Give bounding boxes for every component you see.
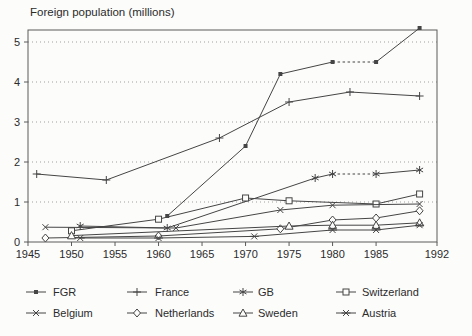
segment — [167, 178, 315, 228]
marker-filled-square — [34, 290, 38, 294]
segment — [289, 201, 376, 204]
segment — [159, 229, 281, 236]
segment — [376, 225, 420, 230]
legend-label-netherlands: Netherlands — [155, 307, 215, 319]
marker-filled-square — [278, 72, 282, 76]
chart-page: Foreign population (millions)01234519451… — [0, 0, 472, 336]
legend-label-belgium: Belgium — [53, 307, 93, 319]
marker-square — [243, 195, 249, 201]
marker-x-bar — [342, 310, 351, 316]
x-tick-label-1960: 1960 — [146, 248, 170, 260]
y-tick-label-4: 4 — [14, 76, 20, 88]
segment — [350, 92, 420, 96]
marker-plus — [33, 170, 41, 178]
marker-diamond — [416, 207, 423, 215]
x-tick-label-1985: 1985 — [364, 248, 388, 260]
legend-label-switzerland: Switzerland — [362, 286, 419, 298]
y-tick-label-1: 1 — [14, 196, 20, 208]
marker-square — [286, 198, 292, 204]
marker-square — [343, 289, 349, 295]
segment — [280, 205, 332, 210]
marker-plus — [416, 92, 424, 100]
legend-item-austria: Austria — [336, 307, 397, 319]
series-gb — [77, 166, 423, 232]
x-tick-label-1970: 1970 — [233, 248, 257, 260]
marker-filled-square — [418, 26, 422, 30]
marker-filled-square — [244, 144, 248, 148]
legend-label-austria: Austria — [362, 307, 397, 319]
y-tick-label-3: 3 — [14, 116, 20, 128]
segment — [333, 204, 420, 205]
marker-diamond — [42, 234, 49, 242]
marker-square — [417, 191, 423, 197]
segment — [289, 92, 350, 102]
y-tick-label-5: 5 — [14, 36, 20, 48]
marker-x-bar — [250, 233, 259, 239]
legend-label-fgr: FGR — [53, 286, 76, 298]
marker-plus — [215, 134, 223, 142]
x-tick-label-1965: 1965 — [190, 248, 214, 260]
y-tick-label-2: 2 — [14, 156, 20, 168]
legend-item-sweden: Sweden — [233, 307, 298, 319]
y-tick-label-0: 0 — [14, 236, 20, 248]
legend-item-netherlands: Netherlands — [127, 307, 215, 319]
legend-label-gb: GB — [258, 286, 274, 298]
legend-label-france: France — [155, 286, 189, 298]
marker-square — [156, 216, 162, 222]
legend-item-belgium: Belgium — [26, 307, 93, 319]
x-tick-label-1950: 1950 — [59, 248, 83, 260]
marker-x-bar — [76, 235, 85, 241]
marker-plus — [133, 288, 141, 296]
series-fgr — [165, 26, 421, 218]
segment — [72, 219, 159, 231]
segment — [37, 174, 107, 180]
foreign-population-line-chart: Foreign population (millions)01234519451… — [0, 0, 472, 336]
segment — [246, 74, 281, 146]
segment — [280, 62, 332, 74]
legend-item-gb: GB — [233, 286, 274, 298]
legend-item-fgr: FGR — [26, 286, 76, 298]
segment — [289, 225, 333, 226]
marker-asterisk — [312, 174, 319, 182]
marker-square — [373, 201, 379, 207]
segment — [176, 210, 280, 228]
segment — [106, 138, 219, 180]
series-sweden — [68, 219, 424, 239]
segment — [219, 102, 289, 138]
x-tick-label-1955: 1955 — [103, 248, 127, 260]
segment — [376, 211, 420, 218]
marker-plus — [102, 176, 110, 184]
segment — [333, 218, 377, 220]
x-tick-label-1945: 1945 — [16, 248, 40, 260]
segment — [376, 170, 420, 174]
segment — [376, 223, 420, 225]
segment — [376, 194, 420, 204]
x-tick-label-1980: 1980 — [320, 248, 344, 260]
marker-diamond — [134, 309, 141, 317]
series-france — [33, 88, 424, 184]
legend-item-switzerland: Switzerland — [336, 286, 419, 298]
chart-title: Foreign population (millions) — [30, 6, 175, 18]
segment — [376, 28, 420, 62]
legend-item-france: France — [127, 286, 189, 298]
x-tick-label-1992: 1992 — [425, 248, 449, 260]
legend-label-sweden: Sweden — [258, 307, 298, 319]
marker-plus — [285, 98, 293, 106]
marker-filled-square — [331, 60, 335, 64]
marker-plus — [346, 88, 354, 96]
segment — [159, 236, 255, 238]
segment — [254, 230, 332, 236]
x-tick-label-1975: 1975 — [277, 248, 301, 260]
marker-filled-square — [374, 60, 378, 64]
